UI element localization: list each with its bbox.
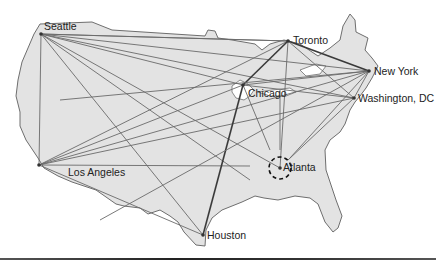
city-label-seattle: Seattle — [44, 20, 77, 32]
city-label-houston: Houston — [207, 229, 246, 241]
city-label-new-york: New York — [374, 65, 418, 77]
bottom-rule — [0, 258, 436, 260]
city-dot — [286, 39, 290, 43]
city-dot — [241, 83, 245, 87]
us-landmass — [16, 14, 378, 246]
city-dot — [201, 233, 205, 237]
city-label-chicago: Chicago — [248, 87, 287, 99]
city-label-washington-dc: Washington, DC — [358, 92, 434, 104]
city-label-atlanta: Atlanta — [283, 161, 316, 173]
city-dot — [352, 96, 356, 100]
city-dot — [37, 163, 41, 167]
city-dot — [367, 69, 371, 73]
city-label-los-angeles: Los Angeles — [68, 166, 125, 178]
city-dot — [278, 166, 282, 170]
city-dot — [39, 32, 43, 36]
route-map — [0, 0, 436, 268]
city-label-toronto: Toronto — [293, 34, 328, 46]
